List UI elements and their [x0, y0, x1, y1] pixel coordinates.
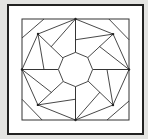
- vertex-dot: [37, 33, 39, 35]
- vertex-dot: [128, 68, 130, 70]
- vertex-dot: [112, 33, 114, 35]
- vertex-dot: [74, 18, 76, 20]
- diagram-canvas: [0, 0, 148, 139]
- vertex-dot: [37, 104, 39, 106]
- quilt-pattern-figure: [0, 0, 148, 139]
- vertex-dot: [74, 119, 76, 121]
- vertex-dot: [112, 104, 114, 106]
- center-octagon: [58, 52, 92, 86]
- vertex-dot: [21, 68, 23, 70]
